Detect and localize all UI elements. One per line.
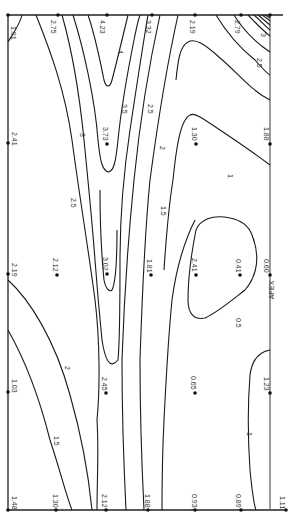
- contour-label: 1.5: [160, 206, 167, 216]
- point-value: 1.30: [191, 127, 198, 141]
- contour-label: 1: [246, 432, 253, 436]
- data-point: [54, 508, 58, 512]
- data-point: [193, 508, 197, 512]
- contour-label: 2.5: [147, 104, 154, 114]
- data-point: [6, 141, 10, 145]
- apex-label: APEX: [268, 280, 275, 299]
- point-value: 0.89: [235, 494, 242, 508]
- data-point: [150, 13, 154, 17]
- point-value: 3.73: [102, 127, 109, 141]
- contour-map-canvas: 4 3.5 3 2.5 2.5 2 1.5 1 2.5 3 2 1.5 0.5 …: [0, 0, 299, 522]
- contour-label: 4: [117, 50, 124, 54]
- point-value: 1.88: [263, 127, 270, 141]
- contour-label: 3: [79, 133, 86, 137]
- data-point: [104, 391, 108, 395]
- data-point: [105, 142, 109, 146]
- point-value: 2.19: [189, 20, 196, 34]
- point-value: 4.23: [99, 20, 106, 34]
- contour-label: 0.5: [235, 318, 242, 328]
- contour-label: 1: [227, 174, 234, 178]
- point-value: 1.11: [279, 496, 286, 509]
- data-point: [146, 508, 150, 512]
- point-value: 3.02: [102, 257, 109, 271]
- contour-label: 2: [64, 366, 71, 370]
- data-point: [239, 508, 243, 512]
- data-point: [56, 13, 60, 17]
- contour-label: 2: [159, 146, 166, 150]
- point-value: 1.88: [144, 494, 151, 508]
- contour-label: 2.5: [256, 58, 263, 68]
- point-value: 2.79: [234, 20, 241, 34]
- data-point: [268, 13, 272, 17]
- contour-labels: 4 3.5 3 2.5 2.5 2 1.5 1 2.5 3 2 1.5 0.5 …: [53, 33, 267, 446]
- data-point: [105, 272, 109, 276]
- data-point: [268, 273, 272, 277]
- point-value: 2.75: [50, 20, 57, 34]
- data-point: [104, 508, 108, 512]
- data-point: [193, 13, 197, 17]
- point-value: 0.65: [190, 376, 197, 390]
- data-point: [6, 272, 10, 276]
- point-value: 2.12: [101, 494, 108, 508]
- point-value: 1.48: [11, 496, 18, 510]
- isolines: [8, 15, 270, 510]
- data-point: [149, 273, 153, 277]
- point-value: 0.93: [191, 494, 198, 508]
- point-value: 1.03: [11, 379, 18, 393]
- data-point: [105, 13, 109, 17]
- point-value: 0.41: [235, 259, 242, 273]
- data-point-labels: 1.91 2.75 4.23 3.32 2.19 2.79 2.41 3.73 …: [10, 20, 286, 510]
- data-point: [193, 391, 197, 395]
- point-value: 1.30: [52, 494, 59, 508]
- point-value: 3.32: [145, 20, 152, 34]
- data-point: [6, 508, 10, 512]
- point-value: 2.45: [101, 377, 108, 391]
- data-point: [55, 273, 59, 277]
- data-point: [268, 391, 272, 395]
- data-point: [194, 273, 198, 277]
- data-point: [268, 142, 272, 146]
- point-value: 2.19: [11, 263, 18, 277]
- point-value: 2.41: [191, 258, 198, 272]
- data-point: [194, 142, 198, 146]
- data-point: [6, 390, 10, 394]
- data-point: [239, 13, 243, 17]
- contour-label: 3: [260, 33, 267, 37]
- contour-label: 1.5: [53, 436, 60, 446]
- point-value: 0.60: [263, 259, 270, 273]
- contour-label: 2.5: [70, 198, 77, 208]
- contour-label: 3.5: [121, 104, 128, 114]
- point-value: 2.12: [52, 258, 59, 272]
- point-value: 1.23: [263, 377, 270, 391]
- data-point: [238, 273, 242, 277]
- point-value: 1.91: [10, 26, 17, 40]
- point-value: 1.81: [146, 259, 153, 273]
- data-point: [6, 13, 10, 17]
- contour-map: 4 3.5 3 2.5 2.5 2 1.5 1 2.5 3 2 1.5 0.5 …: [0, 0, 299, 522]
- point-value: 2.41: [11, 132, 18, 146]
